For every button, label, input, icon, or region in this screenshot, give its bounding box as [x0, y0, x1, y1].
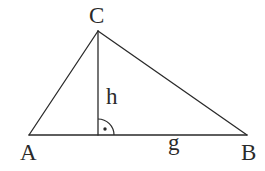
height-label-h: h [106, 84, 118, 109]
base-label-g: g [168, 130, 180, 155]
side-ac [29, 31, 98, 135]
right-angle-arc [98, 119, 114, 135]
triangle-diagram: C A B h g [0, 0, 265, 171]
side-cb [98, 31, 247, 135]
vertex-label-c: C [89, 3, 104, 28]
vertex-label-b: B [241, 140, 256, 165]
right-angle-dot [103, 127, 106, 130]
vertex-label-a: A [20, 140, 37, 165]
